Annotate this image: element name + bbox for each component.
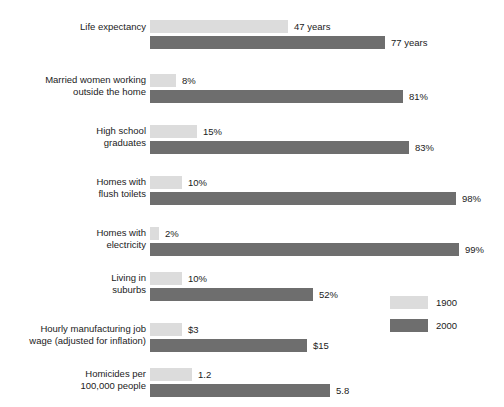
bar-value-label: $3 bbox=[188, 323, 199, 336]
bar-value-label: 8% bbox=[182, 74, 196, 87]
row-label: Homes with flush toilets bbox=[0, 176, 146, 199]
legend-swatch-icon bbox=[390, 296, 428, 309]
bar-value-label: 98% bbox=[462, 192, 481, 205]
chart-container: Life expectancy47 years77 yearsMarried w… bbox=[0, 0, 504, 407]
row-label: Life expectancy bbox=[0, 21, 146, 33]
bar-2000 bbox=[150, 36, 385, 49]
bar-2000 bbox=[150, 192, 456, 205]
bar-value-label: 2% bbox=[165, 227, 179, 240]
bar-value-label: 1.2 bbox=[198, 368, 211, 381]
row-label: Married women working outside the home bbox=[0, 74, 146, 97]
legend-swatch-icon bbox=[390, 319, 428, 332]
bar-value-label: 10% bbox=[188, 176, 207, 189]
row-label: Hourly manufacturing job wage (adjusted … bbox=[0, 323, 146, 346]
bar-1900 bbox=[150, 368, 192, 381]
bar-2000 bbox=[150, 90, 403, 103]
bar-1900 bbox=[150, 227, 159, 240]
bar-value-label: 10% bbox=[188, 272, 207, 285]
row-label: High school graduates bbox=[0, 125, 146, 148]
bar-value-label: 47 years bbox=[294, 20, 330, 33]
bar-1900 bbox=[150, 323, 182, 336]
bar-1900 bbox=[150, 20, 288, 33]
bar-1900 bbox=[150, 176, 182, 189]
bar-value-label: 83% bbox=[415, 141, 434, 154]
bar-value-label: $15 bbox=[313, 339, 329, 352]
bar-2000 bbox=[150, 384, 330, 397]
bar-2000 bbox=[150, 243, 459, 256]
bar-value-label: 81% bbox=[409, 90, 428, 103]
bar-2000 bbox=[150, 339, 307, 352]
legend-label: 1900 bbox=[436, 296, 457, 309]
bar-value-label: 15% bbox=[203, 125, 222, 138]
bar-1900 bbox=[150, 74, 176, 87]
bar-1900 bbox=[150, 125, 197, 138]
bar-value-label: 99% bbox=[465, 243, 484, 256]
row-label: Living in suburbs bbox=[0, 272, 146, 295]
row-label: Homicides per 100,000 people bbox=[0, 368, 146, 391]
bar-value-label: 5.8 bbox=[336, 384, 349, 397]
bar-2000 bbox=[150, 288, 313, 301]
bar-value-label: 52% bbox=[319, 288, 338, 301]
chart-plot-area: Life expectancy47 years77 yearsMarried w… bbox=[0, 0, 504, 407]
row-label: Homes with electricity bbox=[0, 227, 146, 250]
bar-2000 bbox=[150, 141, 409, 154]
bar-1900 bbox=[150, 272, 182, 285]
bar-value-label: 77 years bbox=[391, 36, 427, 49]
legend-label: 2000 bbox=[436, 319, 457, 332]
